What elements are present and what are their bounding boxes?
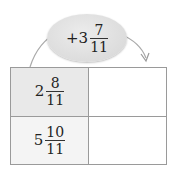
operator-denominator: 11	[90, 39, 108, 54]
input-denominator: 11	[46, 141, 64, 156]
operator-sign: +	[66, 31, 79, 46]
operator-whole: 3	[79, 31, 89, 46]
input-numerator: 10	[45, 125, 65, 140]
answer-cell[interactable]	[89, 68, 167, 117]
input-numerator: 8	[50, 76, 61, 91]
answer-cell[interactable]	[89, 116, 167, 165]
operator-numerator: 7	[94, 23, 105, 38]
input-cell: 2 8 11	[11, 68, 89, 117]
operator-value: + 3 7 11	[66, 23, 108, 54]
table-row: 5 10 11	[11, 116, 167, 165]
mixed-number: 5 10 11	[11, 125, 88, 156]
answer-table: 2 8 11 5 10 11	[10, 67, 167, 165]
table-row: 2 8 11	[11, 68, 167, 117]
input-whole: 2	[35, 84, 45, 99]
input-cell: 5 10 11	[11, 116, 89, 165]
input-fraction: 10 11	[45, 125, 65, 156]
input-whole: 5	[34, 133, 44, 148]
mixed-number: 2 8 11	[11, 76, 88, 107]
operator-fraction: 7 11	[90, 23, 108, 54]
input-fraction: 8 11	[46, 76, 64, 107]
input-denominator: 11	[46, 92, 64, 107]
operator-bubble: + 3 7 11	[47, 14, 127, 62]
